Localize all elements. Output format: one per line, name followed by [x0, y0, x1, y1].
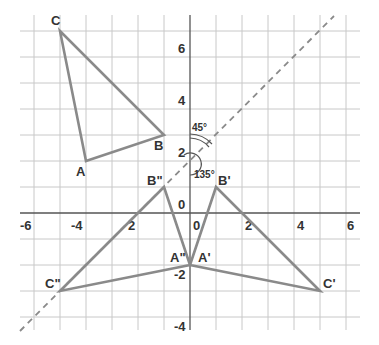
point-label-a-prime: A' [198, 250, 210, 265]
x-tick-labels: -6 -4 2 0 2 4 6 [20, 218, 354, 233]
x-tick-label: 4 [297, 218, 305, 233]
point-label-c: C [51, 13, 61, 28]
x-tick-label: -6 [20, 218, 32, 233]
y-tick-label: 2 [178, 145, 185, 160]
x-tick-label: 6 [347, 218, 354, 233]
y-tick-label: -4 [174, 319, 186, 334]
y-tick-label: 4 [178, 93, 186, 108]
point-label-b-prime: B' [218, 173, 230, 188]
x-tick-label: 0 [193, 218, 200, 233]
coordinate-plane-diagram: -6 -4 2 0 2 4 6 6 4 2 0 -2 -4 45° 135° C… [0, 0, 379, 345]
y-tick-label: 0 [178, 197, 185, 212]
angle-label-135: 135° [194, 169, 215, 180]
y-tick-label: -2 [174, 267, 186, 282]
point-label-a-double-prime: A" [170, 250, 186, 265]
y-tick-label: 6 [178, 41, 185, 56]
x-tick-label: -4 [71, 218, 83, 233]
point-label-c-prime: C' [323, 276, 335, 291]
point-label-b-double-prime: B" [147, 173, 163, 188]
point-label-a: A [76, 164, 86, 179]
point-label-b: B [154, 138, 163, 153]
point-label-c-double-prime: C" [45, 276, 61, 291]
angle-label-45: 45° [192, 122, 207, 133]
